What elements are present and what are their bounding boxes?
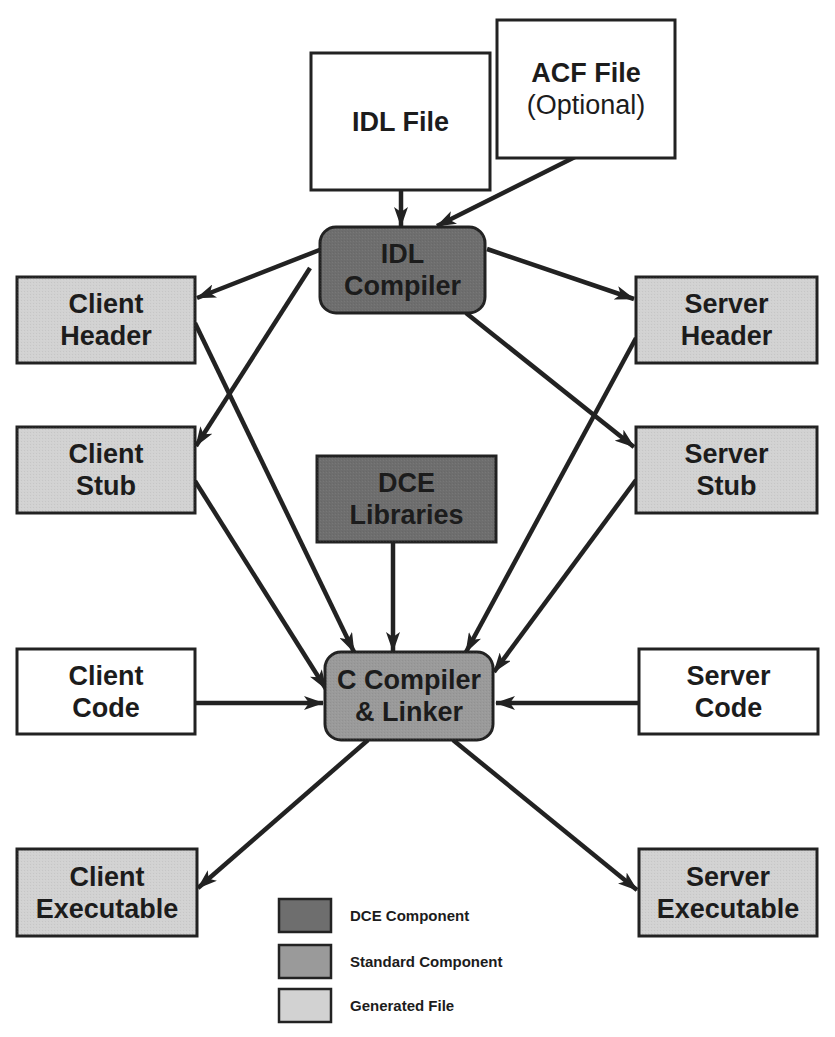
client-stub-label-line: Stub: [76, 471, 136, 501]
node-server-executable: ServerExecutable: [639, 849, 817, 936]
acf-file-label-line: (Optional): [527, 90, 646, 120]
arrow-idl-compiler-to-client-header: [197, 249, 322, 298]
server-stub-label-line: Server: [684, 439, 769, 469]
legend-swatch-generated-file: [279, 989, 331, 1022]
dce-libraries-label-line: Libraries: [349, 500, 463, 530]
acf-file-box: [497, 20, 675, 158]
arrow-c-compiler-to-server-executable: [453, 740, 637, 890]
server-header-label-line: Header: [681, 321, 773, 351]
arrow-client-stub-to-c-compiler: [195, 481, 326, 689]
server-stub-label-line: Stub: [697, 471, 757, 501]
server-executable-label-line: Executable: [657, 894, 800, 924]
node-client-executable: ClientExecutable: [17, 849, 197, 936]
node-dce-libraries: DCELibraries: [317, 456, 496, 542]
legend-swatch-dce-component: [279, 899, 331, 932]
arrow-server-stub-to-c-compiler: [494, 480, 636, 672]
node-client-header: ClientHeader: [17, 277, 195, 363]
legend-label: Generated File: [350, 997, 454, 1014]
node-server-code: ServerCode: [639, 649, 818, 734]
client-executable-label-line: Executable: [36, 894, 179, 924]
client-stub-label-line: Client: [68, 439, 143, 469]
node-idl-file: IDL File: [311, 53, 490, 190]
arrow-idl-compiler-to-server-stub: [466, 313, 634, 447]
node-server-stub: ServerStub: [636, 427, 817, 513]
client-code-label-line: Client: [68, 661, 143, 691]
client-code-label-line: Code: [72, 693, 140, 723]
client-executable-label-line: Client: [69, 862, 144, 892]
idl-compiler-label-line: Compiler: [344, 271, 462, 301]
node-c-compiler: C Compiler& Linker: [325, 652, 493, 740]
legend-label: Standard Component: [350, 953, 503, 970]
acf-file-label-line: ACF File: [531, 58, 641, 88]
idl-compiler-label-line: IDL: [381, 239, 425, 269]
dce-libraries-label-line: DCE: [378, 468, 435, 498]
legend-item: DCE Component: [279, 899, 469, 932]
idl-build-diagram: IDL FileACF File(Optional)IDLCompilerCli…: [0, 0, 835, 1037]
c-compiler-label-line: C Compiler: [337, 665, 482, 695]
server-header-label-line: Server: [684, 289, 769, 319]
server-code-label-line: Code: [695, 693, 763, 723]
client-header-label-line: Header: [60, 321, 152, 351]
nodes-layer: IDL FileACF File(Optional)IDLCompilerCli…: [17, 20, 818, 936]
legend: DCE ComponentStandard ComponentGenerated…: [279, 899, 503, 1022]
client-header-label-line: Client: [68, 289, 143, 319]
server-executable-label-line: Server: [686, 862, 771, 892]
node-server-header: ServerHeader: [636, 277, 817, 363]
server-code-label-line: Server: [686, 661, 771, 691]
c-compiler-label-line: & Linker: [355, 697, 464, 727]
idl-file-label-line: IDL File: [352, 107, 449, 137]
node-acf-file: ACF File(Optional): [497, 20, 675, 158]
legend-label: DCE Component: [350, 907, 469, 924]
legend-item: Generated File: [279, 989, 454, 1022]
node-client-stub: ClientStub: [17, 427, 195, 513]
node-client-code: ClientCode: [17, 649, 195, 734]
node-idl-compiler: IDLCompiler: [320, 227, 485, 313]
arrow-idl-compiler-to-server-header: [487, 249, 634, 299]
legend-item: Standard Component: [279, 945, 503, 978]
legend-swatch-standard-component: [279, 945, 331, 978]
arrow-c-compiler-to-client-executable: [198, 740, 368, 888]
